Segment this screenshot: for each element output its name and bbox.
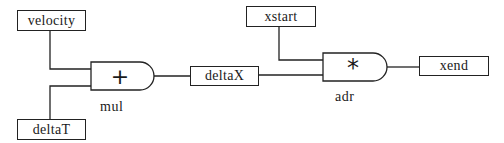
adr-gate-label: adr bbox=[335, 89, 354, 105]
edge-xstart-adr bbox=[279, 27, 323, 60]
mul-gate-plus-icon: + bbox=[105, 63, 135, 89]
node-velocity-label: velocity bbox=[28, 13, 76, 29]
node-deltaX-label: deltaX bbox=[205, 68, 244, 84]
node-xstart-label: xstart bbox=[265, 9, 298, 25]
adr-gate-asterisk-icon: * bbox=[338, 55, 368, 81]
node-xend: xend bbox=[419, 56, 489, 76]
edge-velocity-mul bbox=[50, 31, 91, 69]
node-xend-label: xend bbox=[440, 58, 468, 74]
mul-gate-label: mul bbox=[100, 99, 123, 115]
edge-deltaT-mul bbox=[50, 86, 91, 119]
node-deltaT: deltaT bbox=[17, 119, 86, 140]
node-deltaT-label: deltaT bbox=[33, 122, 71, 138]
node-velocity: velocity bbox=[17, 10, 86, 31]
node-deltaX: deltaX bbox=[190, 66, 259, 86]
node-xstart: xstart bbox=[246, 6, 316, 27]
